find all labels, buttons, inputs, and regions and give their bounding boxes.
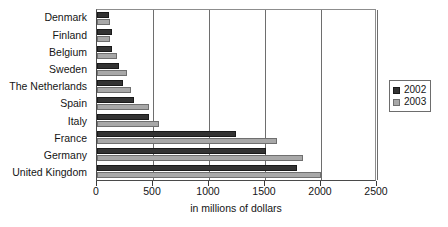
- legend-label: 2003: [404, 97, 426, 107]
- bar-2003: [97, 172, 321, 178]
- y-axis-label: United Kingdom: [0, 164, 92, 181]
- bar-2002: [97, 29, 112, 35]
- bar-group: [97, 78, 375, 95]
- bar-2003: [97, 138, 277, 144]
- bar-2002: [97, 12, 109, 18]
- y-axis-label: Germany: [0, 147, 92, 164]
- y-axis-label: Spain: [0, 95, 92, 112]
- bar-2002: [97, 148, 266, 154]
- x-axis-title: in millions of dollars: [96, 203, 376, 214]
- y-axis-category-labels: DenmarkFinlandBelgiumSwedenThe Netherlan…: [0, 9, 92, 181]
- light-square-swatch: [393, 99, 400, 106]
- legend-item: 2002: [393, 84, 426, 96]
- y-axis-label: The Netherlands: [0, 78, 92, 95]
- x-tick-label: 1000: [196, 186, 219, 197]
- legend-item: 2003: [393, 96, 426, 108]
- bar-chart: DenmarkFinlandBelgiumSwedenThe Netherlan…: [0, 0, 448, 227]
- bar-2003: [97, 121, 159, 127]
- bar-group: [97, 95, 375, 112]
- y-axis-label: Denmark: [0, 9, 92, 26]
- bar-2003: [97, 155, 303, 161]
- bar-2003: [97, 36, 110, 42]
- bar-2002: [97, 114, 149, 120]
- bar-2002: [97, 165, 297, 171]
- bar-2003: [97, 53, 117, 59]
- y-axis-label: Italy: [0, 112, 92, 129]
- plot-area: [96, 9, 376, 181]
- chart-legend: 20022003: [389, 80, 431, 112]
- dark-square-swatch: [393, 87, 400, 94]
- bar-group: [97, 27, 375, 44]
- y-axis-label: Finland: [0, 26, 92, 43]
- bar-2002: [97, 97, 134, 103]
- x-axis-tick-labels: 05001000150020002500: [0, 186, 448, 200]
- y-axis-label: Belgium: [0, 43, 92, 60]
- y-axis-label: Sweden: [0, 61, 92, 78]
- x-tick-label: 2000: [308, 186, 331, 197]
- bar-2003: [97, 19, 110, 25]
- bar-2002: [97, 131, 236, 137]
- bar-group: [97, 44, 375, 61]
- x-tick-label: 2500: [364, 186, 387, 197]
- gridline: [377, 10, 378, 180]
- bar-2003: [97, 104, 149, 110]
- bar-group: [97, 163, 375, 180]
- bar-group: [97, 112, 375, 129]
- x-tick-label: 1500: [252, 186, 275, 197]
- y-axis-label: France: [0, 129, 92, 146]
- bar-2002: [97, 46, 112, 52]
- bar-group: [97, 146, 375, 163]
- bar-group: [97, 129, 375, 146]
- legend-label: 2002: [404, 85, 426, 95]
- x-tick-label: 500: [143, 186, 161, 197]
- bar-group: [97, 61, 375, 78]
- bar-2002: [97, 80, 123, 86]
- bar-group: [97, 10, 375, 27]
- bar-2002: [97, 63, 119, 69]
- bar-2003: [97, 70, 127, 76]
- bars-layer: [97, 10, 375, 180]
- bar-2003: [97, 87, 131, 93]
- x-tick-label: 0: [93, 186, 99, 197]
